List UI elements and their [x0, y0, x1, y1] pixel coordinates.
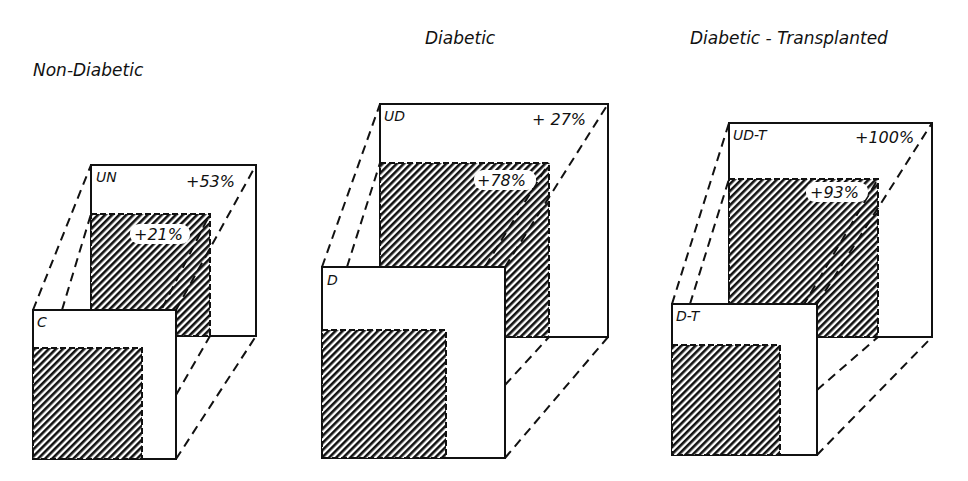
inner-change-label: +78%: [477, 171, 526, 190]
back-label: UN: [96, 169, 117, 185]
front-label: C: [37, 314, 47, 330]
front-hatched-c: [33, 348, 142, 459]
inner-change-label: +21%: [134, 225, 183, 244]
projection-line: [817, 337, 878, 390]
projection-line: [505, 337, 549, 385]
panel-title: Diabetic - Transplanted: [690, 28, 888, 48]
panel-title: Non-Diabetic: [33, 60, 144, 80]
front-hatched-d-t: [672, 345, 780, 455]
projection-line: [505, 337, 608, 458]
outer-change-label: + 27%: [532, 110, 586, 129]
outer-change-label: +100%: [855, 128, 914, 147]
panel-non-diabetic: Non-Diabetic UN +53% +21% C: [33, 60, 256, 459]
projection-line: [322, 104, 380, 267]
front-label: D-T: [676, 308, 701, 324]
projection-line: [347, 163, 380, 267]
front-label: D: [327, 272, 338, 288]
projection-line: [176, 336, 256, 459]
panel-diabetic-transplanted: Diabetic - Transplanted UD-T +100% +93% …: [672, 28, 932, 455]
back-label: UD: [384, 108, 405, 124]
kidney-size-diagram: Non-Diabetic UN +53% +21% C Diabetic UD …: [0, 0, 968, 481]
projection-line: [62, 214, 91, 310]
front-hatched-d: [322, 330, 446, 458]
projection-line: [672, 123, 729, 304]
panel-title: Diabetic: [425, 28, 496, 48]
panel-diabetic: Diabetic UD + 27% +78% D: [322, 28, 608, 458]
projection-line: [690, 179, 729, 304]
projection-line: [33, 165, 91, 310]
outer-change-label: +53%: [186, 172, 235, 191]
inner-change-label: +93%: [810, 183, 859, 202]
projection-line: [176, 336, 210, 395]
back-label: UD-T: [733, 127, 768, 143]
projection-line: [817, 337, 932, 455]
